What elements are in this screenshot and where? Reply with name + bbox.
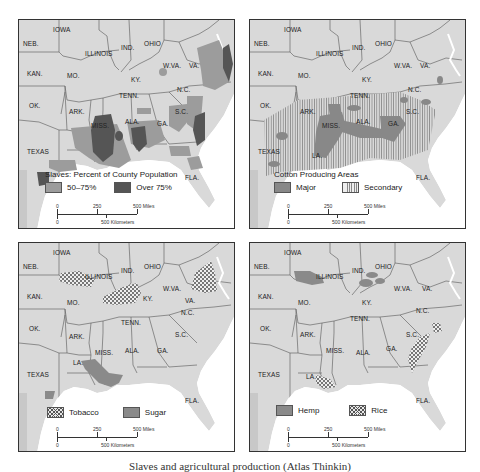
label-la: LA.	[312, 152, 322, 159]
legend-swatch-hemp	[276, 405, 293, 416]
label-neb: NEB.	[23, 263, 39, 270]
legend-swatch-50-75	[45, 182, 62, 193]
legend-label: Hemp	[298, 406, 319, 415]
label-ohio: OHIO	[144, 263, 161, 270]
label-ark: ARK.	[300, 108, 316, 115]
label-kan: KAN.	[258, 70, 274, 77]
label-tenn: TENN.	[119, 92, 139, 99]
label-ohio: OHIO	[375, 263, 392, 270]
scale-bar: 0 250 500 Miles 0 500 Kilometers	[288, 426, 408, 450]
label-neb: NEB.	[254, 263, 270, 270]
label-wva: W.VA.	[163, 285, 181, 292]
label-la: LA.	[73, 359, 83, 366]
label-texas: TEXAS	[258, 371, 280, 378]
label-kan: KAN.	[258, 293, 274, 300]
map-panel-hemp-rice: NEB. IOWA ILLINOIS IND. OHIO W.VA. VA. K…	[249, 242, 466, 452]
legend-title: Cotton Producing Areas	[274, 170, 402, 179]
legend-swatch-rice	[349, 405, 366, 416]
scale-label: 500 Kilometers	[332, 219, 365, 225]
map-panel-cotton: NEB. IOWA ILLINOIS IND. OHIO W.VA. VA. K…	[249, 19, 466, 229]
label-mo: MO.	[67, 299, 80, 306]
label-ga: GA.	[157, 120, 169, 127]
scale-label: 0	[287, 219, 290, 225]
label-ind: IND.	[121, 267, 134, 274]
legend-label: Rice	[371, 406, 387, 415]
scale-bar: 0 250 500 Miles 0 500 Kilometers	[57, 203, 177, 227]
scale-bar: 0 250 500 Miles 0 500 Kilometers	[57, 426, 177, 450]
scale-label: 500 Kilometers	[332, 442, 365, 448]
label-va: VA.	[422, 285, 432, 292]
label-ok: OK.	[29, 102, 41, 109]
scale-label: 0	[56, 442, 59, 448]
label-ky: KY.	[362, 76, 372, 83]
label-ok: OK.	[260, 325, 272, 332]
legend-tobacco-sugar: Tobacco Sugar	[47, 407, 166, 418]
label-ala: ALA.	[125, 347, 140, 354]
map-panel-tobacco-sugar: NEB. IOWA ILLINOIS IND. OHIO W.VA. VA. K…	[18, 242, 235, 452]
scale-label: 500 Kilometers	[101, 219, 134, 225]
legend-title: Slaves: Percent of County Population	[45, 170, 178, 179]
label-va: VA.	[185, 297, 195, 304]
label-sc: S.C.	[175, 331, 188, 338]
label-iowa: IOWA	[284, 26, 302, 33]
label-neb: NEB.	[254, 40, 270, 47]
label-texas: TEXAS	[27, 148, 49, 155]
label-ind: IND.	[121, 44, 134, 51]
label-tenn: TENN.	[350, 315, 370, 322]
legend-swatch-major	[274, 182, 291, 193]
label-wva: W.VA.	[394, 285, 412, 292]
map-hemp-rice-svg	[250, 243, 466, 452]
legend-cotton: Cotton Producing Areas Major Secondary	[274, 170, 402, 193]
scale-bar: 0 250 500 Miles 0 500 Kilometers	[288, 203, 408, 227]
legend-swatch-sugar	[123, 407, 140, 418]
legend-label: Secondary	[364, 183, 402, 192]
legend-label: Sugar	[145, 408, 166, 417]
legend-swatch-tobacco	[47, 407, 64, 418]
label-iowa: IOWA	[53, 26, 71, 33]
scale-label: 0	[56, 219, 59, 225]
label-illinois: ILLINOIS	[85, 273, 113, 280]
map-panel-slaves: NEB. IOWA ILLINOIS IND. OHIO W.VA. VA. K…	[18, 19, 235, 229]
label-ala: ALA.	[125, 118, 140, 125]
label-tenn: TENN.	[121, 319, 141, 326]
label-illinois: ILLINOIS	[316, 50, 344, 57]
label-ga: GA.	[388, 120, 400, 127]
legend-label: 50–75%	[67, 183, 96, 192]
label-illinois: ILLINOIS	[85, 50, 113, 57]
label-ala: ALA.	[356, 118, 371, 125]
label-wva: W.VA.	[163, 62, 181, 69]
label-ga: GA.	[157, 347, 169, 354]
label-ark: ARK.	[300, 331, 316, 338]
label-miss: MISS.	[95, 349, 113, 356]
label-ok: OK.	[29, 325, 41, 332]
legend-swatch-secondary	[342, 182, 359, 193]
label-ark: ARK.	[69, 108, 85, 115]
label-fla: FLA.	[185, 397, 199, 404]
label-kan: KAN.	[27, 70, 43, 77]
label-fla: FLA.	[416, 397, 430, 404]
label-fla: FLA.	[416, 174, 430, 181]
label-va: VA.	[420, 62, 430, 69]
label-mo: MO.	[298, 72, 311, 79]
label-ky: KY.	[143, 295, 153, 302]
legend-swatch-over-75	[114, 182, 131, 193]
scale-label: 0	[287, 442, 290, 448]
label-ky: KY.	[362, 299, 372, 306]
label-kan: KAN.	[27, 293, 43, 300]
label-iowa: IOWA	[284, 249, 302, 256]
legend-label: Tobacco	[69, 408, 99, 417]
label-sc: S.C.	[406, 331, 419, 338]
label-miss: MISS.	[322, 122, 340, 129]
label-nc: N.C.	[181, 309, 194, 316]
scale-label: 500 Kilometers	[101, 442, 134, 448]
label-ky: KY.	[131, 76, 141, 83]
label-ok: OK.	[260, 102, 272, 109]
label-nc: N.C.	[177, 86, 190, 93]
label-illinois: ILLINOIS	[316, 273, 344, 280]
label-sc: S.C.	[406, 108, 419, 115]
label-ala: ALA.	[356, 349, 371, 356]
label-ohio: OHIO	[375, 40, 392, 47]
label-wva: W.VA.	[394, 62, 412, 69]
label-miss: MISS.	[326, 347, 344, 354]
label-mo: MO.	[298, 299, 311, 306]
